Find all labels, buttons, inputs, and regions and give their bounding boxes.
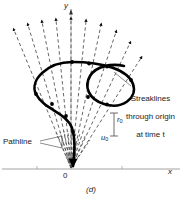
particle-dot (87, 62, 91, 66)
u0-subscript: 0 (105, 136, 108, 142)
particle-dot (129, 78, 133, 82)
particle-dot (34, 92, 38, 96)
u0-label: u0 (101, 134, 108, 142)
streakline-ray (14, 30, 71, 168)
particle-dot (71, 130, 75, 134)
r0-label: r0 (117, 116, 123, 124)
origin-label: 0 (63, 172, 67, 181)
y-axis-label: y (64, 2, 68, 11)
pathline-annotation: Pathline (3, 138, 32, 147)
particle-dot (50, 102, 54, 106)
particle-dot (86, 95, 90, 99)
pathline-leader-lower (40, 143, 62, 148)
streaklines-line-2: through origin (126, 112, 175, 121)
streakline-ray (28, 25, 71, 168)
streaklines-leader (114, 72, 131, 86)
particle-dot (105, 103, 109, 107)
r0-subscript: 0 (120, 118, 123, 124)
streaklines-line-3: at time t (136, 130, 164, 139)
particle-dot (64, 114, 68, 118)
axis-ticks (37, 166, 122, 169)
streakline-ray (42, 22, 71, 168)
figure-panel: y x 0 Streaklines through origin at time… (0, 0, 182, 203)
x-axis-label: x (168, 168, 172, 177)
y-axis-arrow (69, 9, 73, 14)
figure-caption: (d) (0, 186, 182, 195)
streaklines-line-1: Streaklines (131, 94, 171, 103)
streakline-ray (56, 20, 71, 168)
particle-dot (105, 65, 109, 69)
particle-dot (70, 60, 74, 64)
streaklines-annotation: Streaklines through origin at time t (113, 86, 179, 149)
